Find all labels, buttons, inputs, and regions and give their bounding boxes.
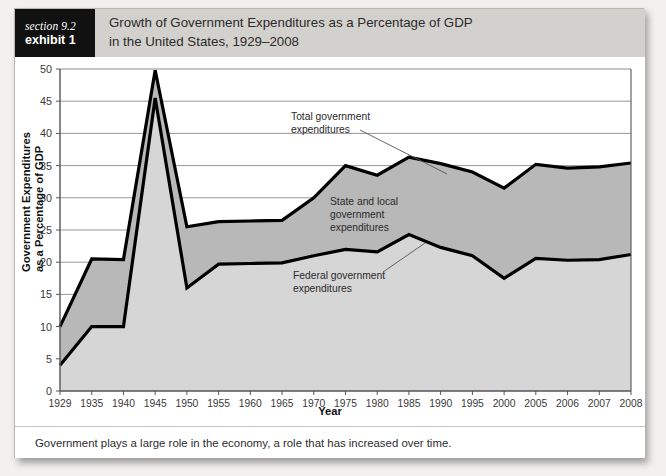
exhibit-caption: Government plays a large role in the eco… bbox=[15, 427, 645, 458]
x-axis-tick-label: 2006 bbox=[556, 398, 579, 409]
exhibit-number-label: exhibit 1 bbox=[25, 33, 87, 48]
exhibit-header: section 9.2 exhibit 1 Growth of Governme… bbox=[15, 9, 645, 57]
annotation-federal-line-1: Federal government bbox=[293, 270, 385, 281]
annotation-federal-line-2: expenditures bbox=[293, 283, 352, 294]
x-axis-tick-label: 2007 bbox=[588, 398, 611, 409]
exhibit-card: section 9.2 exhibit 1 Growth of Governme… bbox=[14, 8, 644, 458]
exhibit-section-label: section 9.2 bbox=[25, 19, 87, 33]
x-axis-tick-label: 1945 bbox=[144, 398, 167, 409]
y-axis-tick-label: 45 bbox=[40, 95, 52, 107]
annotation-total-line-1: Total government bbox=[291, 111, 370, 122]
x-axis-tick-label: 2008 bbox=[620, 398, 643, 409]
x-axis-tick-label: 1929 bbox=[49, 398, 72, 409]
x-axis-tick-label: 1980 bbox=[366, 398, 389, 409]
y-axis-title: Government Expenditures as a Percentage … bbox=[20, 132, 45, 272]
x-axis-tick-label: 1950 bbox=[175, 398, 198, 409]
y-axis-title-line-2: as a Percentage of GDP bbox=[33, 145, 45, 272]
x-axis-tick-label: 2005 bbox=[524, 398, 547, 409]
x-axis-tick-label: 1960 bbox=[239, 398, 262, 409]
exhibit-title-line-1: Growth of Government Expenditures as a P… bbox=[109, 14, 635, 33]
expenditures-area-chart: 05101520253035404550 1929193519401945195… bbox=[15, 57, 645, 427]
exhibit-caption-text: Government plays a large role in the eco… bbox=[35, 437, 451, 449]
annotation-total-line-2: expenditures bbox=[291, 124, 350, 135]
chart-container: 05101520253035404550 1929193519401945195… bbox=[15, 57, 645, 427]
y-axis-title-line-1: Government Expenditures bbox=[20, 132, 32, 272]
annotation-state-local-line-3: expenditures bbox=[330, 222, 389, 233]
x-axis-title: Year bbox=[318, 405, 342, 417]
x-axis-tick-label: 1940 bbox=[112, 398, 135, 409]
exhibit-title: Growth of Government Expenditures as a P… bbox=[95, 9, 645, 57]
x-axis-tick-label: 1995 bbox=[461, 398, 484, 409]
y-axis-tick-label: 10 bbox=[40, 321, 52, 333]
y-axis-tick-label: 0 bbox=[46, 385, 52, 397]
page-root: section 9.2 exhibit 1 Growth of Governme… bbox=[0, 0, 666, 476]
y-axis-tick-label: 15 bbox=[40, 288, 52, 300]
annotation-state-local-line-1: State and local bbox=[330, 196, 398, 207]
x-axis-tick-label: 1935 bbox=[80, 398, 103, 409]
y-axis-tick-label: 5 bbox=[46, 353, 52, 365]
exhibit-tag: section 9.2 exhibit 1 bbox=[15, 9, 95, 57]
exhibit-title-line-2: in the United States, 1929–2008 bbox=[109, 33, 635, 52]
y-axis-tick-label: 50 bbox=[40, 63, 52, 75]
x-axis-tick-label: 1985 bbox=[397, 398, 420, 409]
annotation-state-local-line-2: government bbox=[330, 209, 385, 220]
x-axis-tick-label: 1965 bbox=[271, 398, 294, 409]
x-axis-tick-label: 2000 bbox=[493, 398, 516, 409]
x-axis-tick-labels: 1929193519401945195019551960196519701975… bbox=[49, 398, 643, 409]
x-axis-tick-label: 1955 bbox=[207, 398, 230, 409]
y-axis-tick-label: 40 bbox=[40, 127, 52, 139]
x-axis-tick-label: 1990 bbox=[429, 398, 452, 409]
